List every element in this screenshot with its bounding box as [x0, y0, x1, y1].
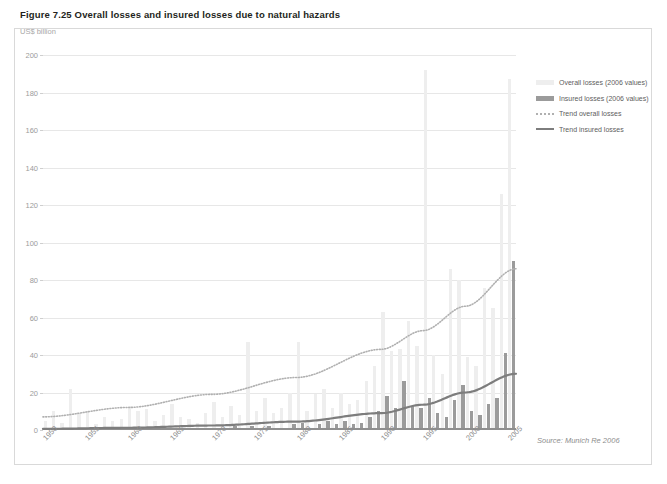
y-axis-tick-mark	[40, 55, 43, 56]
legend-item: Trend insured losses	[536, 125, 646, 134]
bar-overall-losses	[457, 280, 460, 430]
bar-insured-losses	[487, 404, 490, 430]
bar-overall-losses	[69, 389, 72, 430]
gridline	[43, 243, 516, 244]
y-axis-tick-label: 160	[0, 126, 38, 135]
y-axis-tick-label: 180	[0, 88, 38, 97]
bar-overall-losses	[398, 349, 401, 430]
y-axis-tick-label: 200	[0, 51, 38, 60]
bar-overall-losses	[390, 351, 393, 430]
legend-item: Insured losses (2006 values)	[536, 94, 646, 103]
y-axis-tick-mark	[40, 393, 43, 394]
legend-item-label: Overall losses (2006 values)	[559, 79, 647, 86]
bar-overall-losses	[407, 321, 410, 430]
x-axis-baseline	[43, 428, 516, 430]
bar-overall-losses	[331, 408, 334, 431]
page-title: Figure 7.25 Overall losses and insured l…	[20, 9, 340, 20]
gridline	[43, 93, 516, 94]
y-axis-tick-label: 120	[0, 201, 38, 210]
bar-overall-losses	[339, 393, 342, 431]
bar-overall-losses	[441, 374, 444, 430]
y-axis-tick-mark	[40, 355, 43, 356]
y-axis-tick-mark	[40, 168, 43, 169]
y-axis-tick-mark	[40, 130, 43, 131]
gridline	[43, 130, 516, 131]
legend-swatch-icon	[536, 96, 554, 101]
y-axis-tick-label: 0	[0, 426, 38, 435]
bar-insured-losses	[419, 408, 422, 431]
bar-overall-losses	[297, 342, 300, 430]
bar-overall-losses	[474, 366, 477, 430]
legend-item-label: Trend insured losses	[559, 126, 624, 133]
bar-overall-losses	[432, 355, 435, 430]
legend-item: Overall losses (2006 values)	[536, 78, 646, 87]
y-axis-tick-mark	[40, 280, 43, 281]
y-axis-tick-label: 20	[0, 388, 38, 397]
bar-overall-losses	[449, 269, 452, 430]
bar-overall-losses	[280, 408, 283, 431]
chart-legend: Overall losses (2006 values)Insured loss…	[536, 78, 646, 140]
legend-item-label: Insured losses (2006 values)	[559, 95, 649, 102]
y-axis-tick-label: 40	[0, 351, 38, 360]
bar-overall-losses	[170, 404, 173, 430]
chart-plot-wrapper: 020406080100120140160180200 195019551960…	[43, 55, 516, 430]
bar-overall-losses	[373, 366, 376, 430]
bar-overall-losses	[381, 312, 384, 430]
bar-insured-losses	[411, 406, 414, 430]
bar-overall-losses	[500, 194, 503, 430]
bar-overall-losses	[229, 406, 232, 430]
bar-insured-losses	[453, 400, 456, 430]
gridline	[43, 318, 516, 319]
bar-insured-losses	[504, 353, 507, 430]
y-axis-tick-label: 100	[0, 238, 38, 247]
legend-swatch-icon	[536, 128, 554, 131]
y-axis-tick-mark	[40, 318, 43, 319]
y-axis-tick-label: 60	[0, 313, 38, 322]
chart-plot-area: 020406080100120140160180200	[43, 55, 516, 430]
bar-overall-losses	[288, 393, 291, 431]
y-axis-tick-mark	[40, 430, 43, 431]
bar-overall-losses	[314, 394, 317, 430]
gridline	[43, 55, 516, 56]
bar-insured-losses	[402, 381, 405, 430]
bar-overall-losses	[145, 409, 148, 430]
trend-line-overall	[43, 269, 516, 417]
bar-overall-losses	[246, 342, 249, 430]
legend-swatch-icon	[536, 113, 554, 115]
bar-overall-losses	[356, 400, 359, 430]
bar-overall-losses	[491, 308, 494, 430]
gridline	[43, 168, 516, 169]
bar-overall-losses	[466, 357, 469, 430]
y-axis-tick-label: 140	[0, 163, 38, 172]
bar-overall-losses	[322, 389, 325, 430]
bar-insured-losses	[394, 408, 397, 431]
legend-item: Trend overall losses	[536, 109, 646, 118]
bar-overall-losses	[415, 346, 418, 430]
legend-item-label: Trend overall losses	[559, 110, 621, 117]
gridline	[43, 393, 516, 394]
bar-overall-losses	[365, 381, 368, 430]
y-axis-tick-mark	[40, 93, 43, 94]
y-axis-tick-mark	[40, 243, 43, 244]
bar-insured-losses	[512, 261, 515, 430]
y-axis-tick-mark	[40, 205, 43, 206]
legend-swatch-icon	[536, 80, 554, 85]
bar-overall-losses	[483, 288, 486, 431]
gridline	[43, 280, 516, 281]
y-axis-unit-label: US$ billion	[20, 27, 56, 36]
bar-overall-losses	[212, 402, 215, 430]
source-note: Source: Munich Re 2006	[537, 436, 620, 445]
y-axis-tick-label: 80	[0, 276, 38, 285]
bar-overall-losses	[424, 70, 427, 430]
gridline	[43, 205, 516, 206]
bar-overall-losses	[508, 79, 511, 430]
bar-overall-losses	[128, 406, 131, 430]
bar-insured-losses	[495, 398, 498, 430]
gridline	[43, 355, 516, 356]
bar-insured-losses	[461, 385, 464, 430]
